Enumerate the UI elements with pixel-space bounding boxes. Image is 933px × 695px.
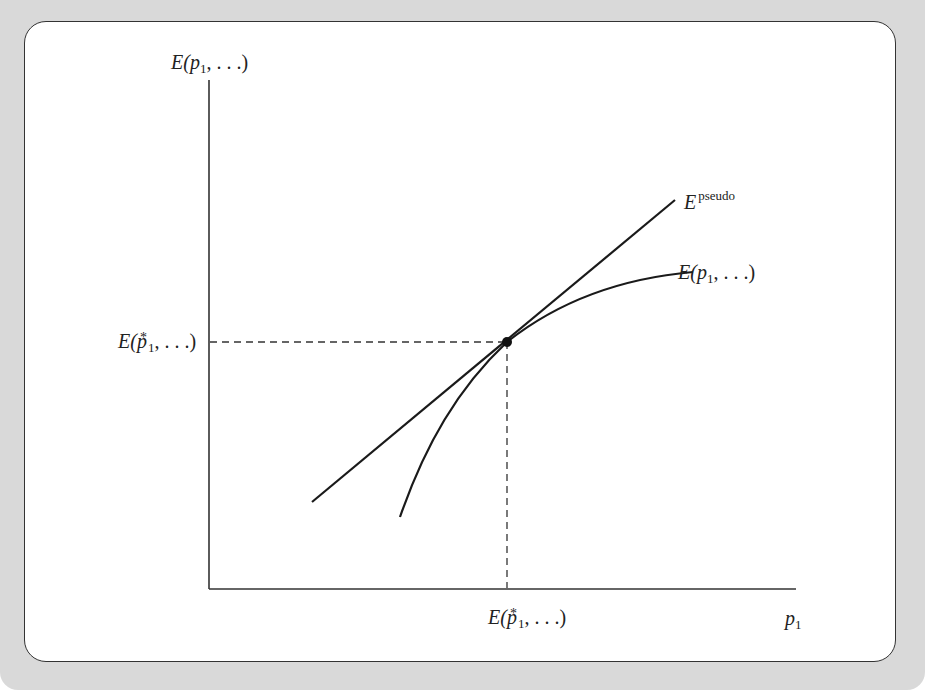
tangent-point-dot: [502, 337, 512, 347]
y-tick-label: E(p*1, . . .): [118, 331, 196, 354]
x-axis-label: p1: [785, 608, 802, 631]
y-axis-label: E(p1, . . .): [171, 52, 248, 75]
e-function-label: E(p1, . . .): [678, 262, 755, 285]
e-pseudo-line: [312, 200, 675, 502]
e-pseudo-label: Epseudo: [684, 189, 735, 212]
x-tick-label: E(p*1, . . .): [488, 607, 566, 630]
e-function-curve: [400, 272, 693, 517]
